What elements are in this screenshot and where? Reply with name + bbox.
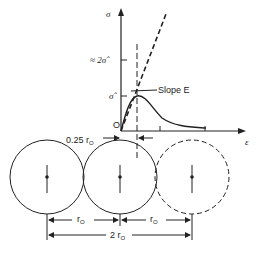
y-axis	[118, 8, 124, 131]
x-axis-arrow-icon	[238, 128, 246, 134]
elastic-line	[121, 14, 166, 131]
offset-label: 0.25 rO	[66, 135, 94, 146]
svg-text:rO: rO	[150, 214, 158, 225]
tick-label-sigma-hat: σ̂	[109, 91, 117, 101]
origin-label: O	[113, 120, 120, 130]
svg-text:2 rO: 2 rO	[110, 230, 126, 241]
x-axis-label: ε	[245, 137, 249, 147]
dim-r0-left: rO	[49, 214, 118, 225]
atom-1	[10, 140, 84, 214]
slope-label: Slope E	[158, 85, 190, 95]
x-axis	[121, 128, 246, 134]
svg-text:rO: rO	[77, 214, 85, 225]
stress-strain-atom-diagram: σ ε O ≈ 2σ̂ σ̂ Slope E 0.25 rO r	[0, 0, 277, 257]
atom-2	[83, 140, 157, 214]
tick-label-2sigma: ≈ 2σ̂	[90, 55, 110, 65]
dim-2r0: 2 rO	[49, 230, 190, 241]
dim-r0-right: rO	[122, 214, 190, 225]
slope-leader	[131, 90, 157, 91]
y-axis-arrow-icon	[118, 8, 124, 16]
stress-curve	[121, 96, 206, 131]
y-axis-label: σ	[106, 9, 111, 19]
atom-3-dashed	[155, 140, 229, 214]
